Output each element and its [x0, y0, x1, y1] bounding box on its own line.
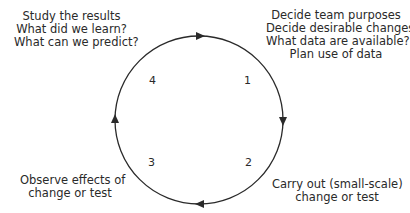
- arrow-bottom-icon: [195, 200, 204, 208]
- stage-number-4: 4: [149, 75, 156, 87]
- stage-2-description: Carry out (small-scale) change or test: [272, 178, 402, 204]
- arrow-right-icon: [279, 117, 287, 126]
- stage-number-2: 2: [245, 157, 252, 169]
- stage-1-description: Decide team purposes Decide desirable ch…: [266, 9, 406, 61]
- stage-number-3: 3: [148, 157, 155, 169]
- stage-3-description: Observe effects of change or test: [20, 174, 120, 200]
- cycle-circle: [115, 36, 283, 204]
- stage-number-1: 1: [244, 75, 251, 87]
- stage-3-line: change or test: [20, 187, 120, 200]
- arrow-top-icon: [196, 32, 205, 40]
- stage-4-line: What can we predict?: [14, 36, 129, 49]
- stage-2-line: change or test: [272, 191, 402, 204]
- stage-1-line: Plan use of data: [266, 48, 406, 61]
- stage-4-description: Study the results What did we learn? Wha…: [14, 10, 129, 49]
- arrow-left-icon: [111, 114, 119, 123]
